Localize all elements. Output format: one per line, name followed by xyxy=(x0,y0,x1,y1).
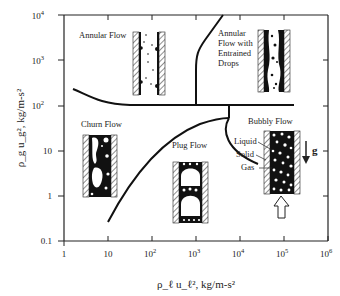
x-tick-label: 103 xyxy=(188,247,200,259)
annotation-gravity: g xyxy=(312,144,318,156)
x-tick-label: 106 xyxy=(320,247,333,259)
y-tick-label: 104 xyxy=(32,9,45,21)
svg-text:Flow with: Flow with xyxy=(218,38,253,48)
boundary-plug xyxy=(108,118,229,222)
pipe-illustration-churn xyxy=(83,135,117,197)
y-axis-label: ρ_g u_g², kg/m-s² xyxy=(14,88,26,167)
annotation-liquid: Liquid xyxy=(234,136,257,146)
svg-text:Entrained: Entrained xyxy=(218,48,252,58)
x-tick-label: 102 xyxy=(144,247,156,259)
y-tick-label: 10 xyxy=(43,146,53,156)
flow-up-arrow-icon xyxy=(274,196,289,218)
pipe-illustration-bubbly xyxy=(264,131,300,218)
y-tick-labels: 0.1 1 10 102 103 104 xyxy=(32,9,53,246)
annotation-gas: Gas xyxy=(241,162,254,172)
y-tick-label: 0.1 xyxy=(41,236,52,246)
x-tick-label: 10 xyxy=(104,249,114,259)
y-tick-label: 1 xyxy=(48,191,53,201)
svg-text:Drops: Drops xyxy=(218,58,239,68)
x-tick-label: 104 xyxy=(232,247,245,259)
x-tick-label: 105 xyxy=(276,247,288,259)
pipe-illustration-plug xyxy=(173,162,208,223)
annotation-solid: Solid xyxy=(236,149,255,159)
region-label-plug: Plug Flow xyxy=(172,140,208,150)
pipe-illustration-annular-entrained xyxy=(258,30,290,92)
region-label-bubbly: Bubbly Flow xyxy=(248,116,293,126)
flow-regime-chart: 1 10 102 103 104 105 106 0.1 1 10 102 10… xyxy=(0,0,340,296)
y-tick-label: 102 xyxy=(32,99,44,111)
region-label-annular-entrained: Annular Flow with Entrained Drops xyxy=(218,28,253,68)
y-tick-label: 103 xyxy=(32,54,44,66)
x-axis-label: ρ_ℓ u_ℓ², kg/m-s² xyxy=(157,278,236,290)
svg-text:Annular: Annular xyxy=(218,28,246,38)
x-tick-label: 1 xyxy=(62,249,67,259)
region-label-annular: Annular Flow xyxy=(79,30,127,40)
x-tick-labels: 1 10 102 103 104 105 106 xyxy=(62,247,333,259)
region-label-churn: Churn Flow xyxy=(81,119,123,129)
pipe-illustration-annular xyxy=(133,32,165,95)
